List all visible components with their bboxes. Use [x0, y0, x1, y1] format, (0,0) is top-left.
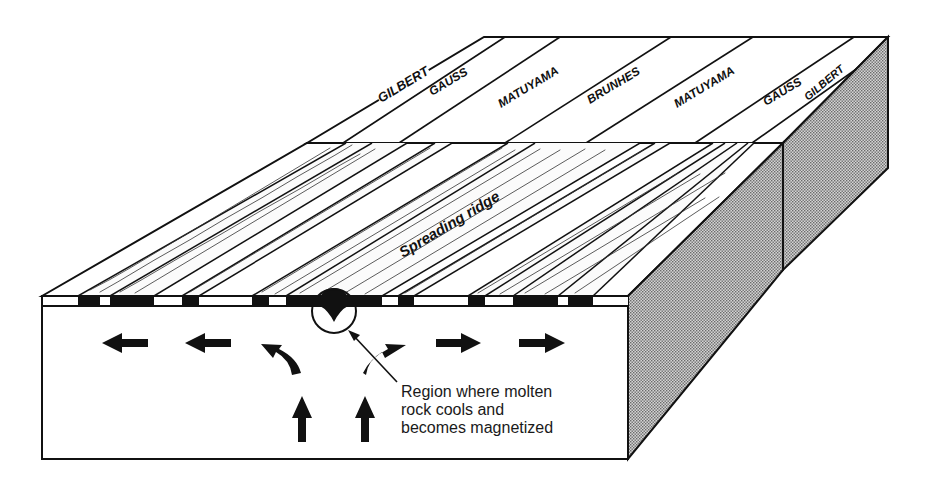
callout-line-1: Region where molten [401, 383, 552, 400]
reversed-polarity-band [485, 297, 513, 306]
reversed-polarity-band [43, 297, 78, 306]
normal-polarity-band [78, 297, 100, 306]
reversed-polarity-band [558, 297, 568, 306]
reversed-polarity-band [100, 297, 110, 306]
reversed-polarity-band [269, 297, 286, 306]
reversed-polarity-band [154, 297, 182, 306]
reversed-polarity-band [382, 297, 398, 306]
normal-polarity-band [398, 297, 414, 306]
reversed-polarity-band [593, 297, 628, 306]
reversed-polarity-band [199, 297, 252, 306]
callout-line-2: rock cools and [401, 401, 504, 418]
normal-polarity-band [513, 297, 558, 306]
normal-polarity-band [110, 297, 154, 306]
seafloor-spreading-diagram: Region where molten rock cools and becom… [0, 0, 929, 487]
normal-polarity-band [182, 297, 199, 306]
normal-polarity-band [568, 297, 593, 306]
normal-polarity-band [468, 297, 485, 306]
callout-line-3: becomes magnetized [401, 419, 553, 436]
normal-polarity-band [252, 297, 269, 306]
reversed-polarity-band [414, 297, 468, 306]
